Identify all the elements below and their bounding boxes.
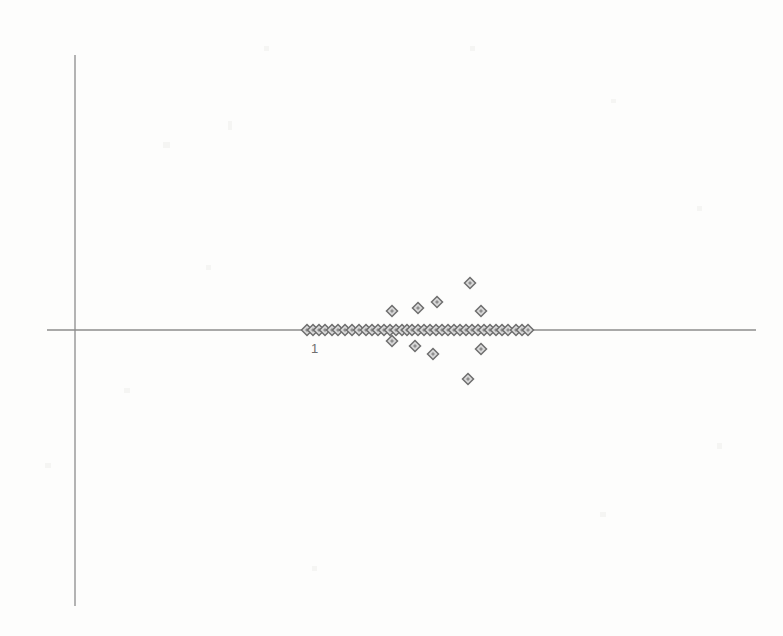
data-point-marker	[463, 374, 474, 385]
data-point-marker	[465, 278, 476, 289]
data-point-marker	[476, 306, 487, 317]
data-points-on-axis	[302, 325, 534, 336]
data-point-marker	[410, 341, 421, 352]
figure-canvas: 1	[0, 0, 783, 636]
data-point-marker	[432, 297, 443, 308]
x-axis-tick-label-1: 1	[311, 342, 318, 355]
scatter-plot	[0, 0, 783, 636]
data-point-marker	[413, 303, 424, 314]
data-point-marker	[387, 306, 398, 317]
data-point-marker	[476, 344, 487, 355]
data-point-marker	[387, 336, 398, 347]
data-point-marker	[428, 349, 439, 360]
